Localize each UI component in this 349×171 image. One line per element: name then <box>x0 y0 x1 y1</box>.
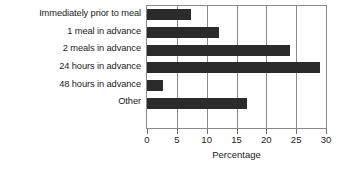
category-label: Immediately prior to meal <box>0 5 144 23</box>
bar-slot <box>147 77 327 95</box>
bar-series <box>147 6 326 128</box>
category-label: 48 hours in advance <box>0 76 144 94</box>
x-tick-label: 5 <box>174 134 179 145</box>
x-tick-label: 10 <box>201 134 212 145</box>
bar-slot <box>147 59 327 77</box>
bar <box>147 45 290 56</box>
bar-slot <box>147 95 327 113</box>
bar <box>147 27 219 38</box>
bar <box>147 98 247 109</box>
bar-slot <box>147 24 327 42</box>
bar-slot <box>147 41 327 59</box>
x-tick-label: 25 <box>291 134 302 145</box>
bar-slot <box>147 6 327 24</box>
category-label: 2 meals in advance <box>0 40 144 58</box>
x-tick-label: 20 <box>261 134 272 145</box>
category-label: Other <box>0 93 144 111</box>
x-axis-title: Percentage <box>146 149 327 160</box>
x-tick-label: 0 <box>144 134 149 145</box>
x-tick-label: 30 <box>321 134 332 145</box>
category-label: 24 hours in advance <box>0 58 144 76</box>
x-tick-label: 15 <box>231 134 242 145</box>
x-axis-tick-labels: 051015202530 <box>146 134 327 148</box>
bar <box>147 9 191 20</box>
category-axis-labels: Immediately prior to meal 1 meal in adva… <box>0 5 144 129</box>
plot-area <box>146 5 327 129</box>
bar <box>147 80 163 91</box>
bar-chart: Immediately prior to meal 1 meal in adva… <box>0 0 349 171</box>
bar <box>147 62 320 73</box>
category-label: 1 meal in advance <box>0 23 144 41</box>
